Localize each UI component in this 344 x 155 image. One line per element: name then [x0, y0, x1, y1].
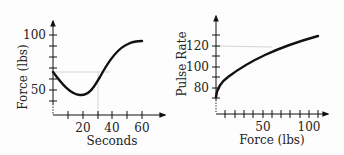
- x-tick-label-50: 50: [255, 120, 270, 134]
- charts-canvas: 100 50 20 40 60 Seconds Force (lbs): [0, 0, 344, 155]
- y-axis-label: Pulse Rate: [175, 31, 189, 96]
- x-tick-label-60: 60: [134, 121, 149, 135]
- y-tick-label-80: 80: [194, 81, 209, 95]
- pulse-curve: [216, 36, 318, 97]
- x-axis-label: Force (lbs): [239, 133, 304, 147]
- y-tick-label-100: 100: [186, 60, 209, 74]
- y-tick-label-50: 50: [31, 83, 46, 97]
- y-tick-label-100: 100: [23, 28, 46, 42]
- force-curve: [53, 41, 142, 95]
- force-vs-seconds-chart: 100 50 20 40 60 Seconds Force (lbs): [16, 21, 165, 148]
- y-tick-label-120: 120: [186, 39, 209, 53]
- x-tick-label-100: 100: [298, 120, 321, 134]
- pulse-vs-force-chart: 120 100 80 50 100 Force (lbs) Pulse Rate: [175, 16, 328, 147]
- guide-line-horizontal: [216, 46, 272, 47]
- x-tick-label-40: 40: [104, 121, 119, 135]
- x-axis-label: Seconds: [87, 134, 138, 148]
- y-axis-label: Force (lbs): [16, 44, 30, 109]
- x-tick-label-20: 20: [75, 121, 90, 135]
